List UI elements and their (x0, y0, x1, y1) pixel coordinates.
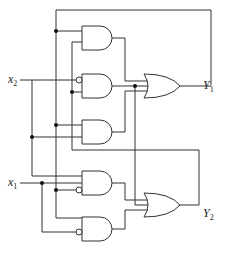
and-gate-2 (76, 74, 112, 98)
y2-taps (72, 42, 82, 92)
and-gate-5 (76, 217, 112, 241)
output-y2-label: Y2 (203, 206, 214, 222)
and-gate-3 (82, 120, 112, 144)
input-x1-label: x1 (8, 175, 17, 191)
junction-dots (30, 29, 137, 192)
logic-circuit-diagram (0, 0, 227, 254)
x2-wires (20, 80, 82, 176)
and-gate-1 (82, 26, 112, 50)
input-x2-label: x2 (8, 72, 17, 88)
or-gate-2 (144, 193, 199, 217)
or-gate-1 (144, 74, 211, 98)
output-y1-label: Y1 (203, 78, 214, 94)
